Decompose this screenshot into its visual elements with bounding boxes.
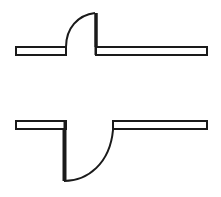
- lower-right-bar: [113, 121, 207, 129]
- line-art-svg: [0, 0, 221, 197]
- figure-canvas: Two-part line drawing of stepped bar pro…: [0, 0, 221, 197]
- background-rect: [0, 0, 221, 197]
- upper-right-bar: [96, 47, 207, 55]
- lower-left-bar: [16, 121, 66, 129]
- upper-left-bar: [16, 47, 66, 55]
